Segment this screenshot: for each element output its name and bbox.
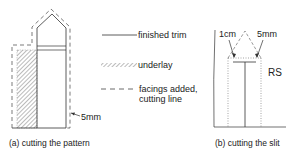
dimension-label-5mm-a: 5mm — [81, 112, 101, 122]
caption-figure-b: (b) cutting the slit — [215, 138, 280, 148]
caption-figure-a: (a) cutting the pattern — [9, 138, 90, 148]
finished-trim-outline — [37, 14, 66, 128]
figure-b-drawing — [214, 30, 286, 127]
diagram-canvas — [0, 0, 293, 154]
legend-swatches — [101, 35, 137, 89]
arrowhead-icon — [71, 113, 75, 116]
legend-label-finished-trim: finished trim — [138, 30, 187, 40]
figure-a-drawing — [12, 9, 80, 128]
legend-label-facings-line2: cutting line — [139, 94, 182, 104]
legend-hatched-swatch — [101, 63, 137, 67]
legend-label-facings-line1: facings added, — [139, 84, 198, 94]
dimension-label-5mm-b: 5mm — [257, 29, 277, 39]
garment-edge — [214, 30, 286, 127]
underlay-hatched-area — [17, 50, 37, 128]
dimension-label-1cm: 1cm — [219, 29, 236, 39]
arrowhead-icon — [255, 53, 259, 58]
legend-label-underlay: underlay — [138, 60, 173, 70]
arrowhead-icon — [232, 53, 236, 58]
side-label-rs: RS — [268, 68, 282, 78]
